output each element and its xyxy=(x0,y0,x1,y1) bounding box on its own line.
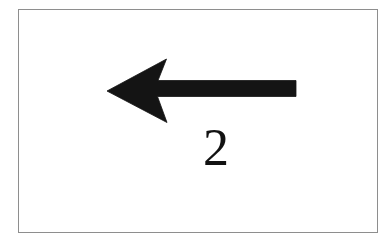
arrow-label-2: 2 xyxy=(196,122,236,174)
figure-frame-border xyxy=(18,9,378,233)
figure-root: 2 xyxy=(0,0,391,252)
